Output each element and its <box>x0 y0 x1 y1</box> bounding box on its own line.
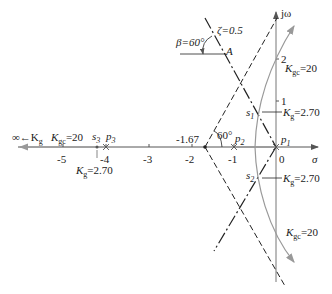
pole-p1-label: p1 <box>280 133 291 148</box>
tick-label-neg5: -5 <box>57 153 67 165</box>
s3-point <box>96 146 99 149</box>
centroid-label: -1.67 <box>176 133 199 145</box>
kg-infinity-label: ∞←Kg <box>12 131 43 146</box>
centroid-point <box>203 145 207 149</box>
kg-270-real-label: Kg=2.70 <box>75 164 113 179</box>
tick-label-neg2: -2 <box>185 153 194 165</box>
beta-label: β=60° <box>175 36 205 48</box>
kg-270-lower-label: Kg=2.70 <box>282 172 320 187</box>
point-a-label: A <box>225 45 233 57</box>
kgc-20-left-label: Kgc=20 <box>50 131 84 146</box>
imag-axis-label: jω <box>280 7 291 19</box>
zeta-label: ζ=0.5 <box>217 24 243 37</box>
tick-label-neg3: -3 <box>143 153 153 165</box>
pole-p3-label: p3 <box>105 130 116 145</box>
tick-label-0: 0 <box>279 153 285 165</box>
root-locus-diagram: jω σ -5 -4 -3 -2 -1 0 2 1 -1.67 60° p1 p… <box>0 0 332 294</box>
kg-270-upper-label: Kg=2.70 <box>282 106 320 121</box>
pole-p2-label: p2 <box>234 132 245 147</box>
s1-label: s1 <box>246 106 254 121</box>
s2-label: s2 <box>246 169 254 184</box>
angle-60-label: 60° <box>217 129 232 141</box>
real-axis-label: σ <box>312 153 318 165</box>
kgc-20-lower-label: Kgc=20 <box>285 226 319 241</box>
zeta-line-lower <box>214 147 276 251</box>
asymptote-lower <box>205 147 285 286</box>
tick-label-neg1: -1 <box>228 153 237 165</box>
s3-label: s3 <box>92 130 100 145</box>
locus-branch-upper <box>255 26 294 147</box>
kgc-20-upper-label: Kgc=20 <box>284 62 318 77</box>
